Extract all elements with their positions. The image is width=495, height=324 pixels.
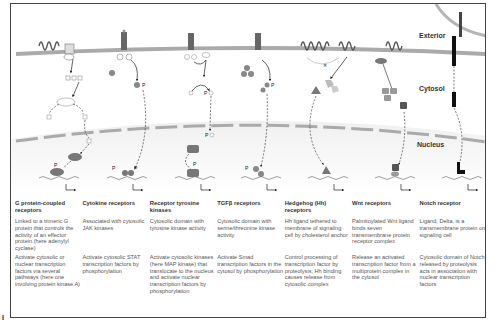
pathway-title: Receptor tyrosine kinases — [150, 200, 216, 216]
pathway-column-tgfb: TGFβ receptors Cytosolic domain with ser… — [217, 200, 283, 318]
pathway-column-rtk: Receptor tyrosine kinases Cytosolic doma… — [150, 200, 216, 318]
svg-text:P: P — [204, 90, 208, 96]
pathway-effect: Activate cytosolic kinases (here MAP kin… — [150, 254, 216, 295]
pathway-description: Cytosolic domain with tyrosine kinase ac… — [150, 218, 216, 252]
pathway-title: Wnt receptors — [352, 200, 418, 216]
svg-text:P: P — [271, 82, 275, 88]
pathway-column-hedgehog: Hedgehog (Hh) receptors Hh ligand tether… — [285, 200, 351, 318]
pathway-title: Notch receptor — [420, 200, 486, 216]
pathway-effect: Activate cytosolic STAT transcription fa… — [82, 254, 148, 274]
pathway-title: TGFβ receptors — [217, 200, 283, 216]
pathway-effect: Activate cytosolic or nuclear transcript… — [15, 254, 81, 288]
pathway-illustration: P P P P — [11, 4, 486, 194]
pathway-effect: Activate Smad transcription factors in t… — [217, 254, 283, 274]
nucleus-region — [11, 121, 486, 194]
pathway-description: Ligand, Delta, is a transmembrane protei… — [420, 218, 486, 252]
svg-text:✕: ✕ — [323, 62, 327, 68]
label-nucleus: Nucleus — [417, 141, 444, 148]
pathway-title: Cytokine receptors — [82, 200, 148, 216]
pathway-column-wnt: Wnt receptors Palmitoylated Wnt ligand b… — [352, 200, 418, 318]
pathway-effect: Release an activated transcription facto… — [352, 254, 418, 281]
pathway-descriptions: G protein-coupled receptors Linked to a … — [11, 200, 486, 318]
pathway-column-gpcr: G protein-coupled receptors Linked to a … — [15, 200, 81, 318]
pathway-effect: Cytosolic domain of Notch released by pr… — [420, 254, 486, 288]
plasma-membrane — [16, 48, 486, 54]
label-exterior: Exterior — [419, 32, 445, 39]
pathway-description: Cytosolic domain with serine/threonine k… — [217, 218, 283, 252]
signaling-pathways-diagram: P P P P — [11, 4, 486, 194]
pathway-description: Hh ligand tethered to membrane of signal… — [285, 218, 351, 252]
pathway-title: G protein-coupled receptors — [15, 200, 81, 216]
figure-frame: P P P P — [10, 3, 486, 318]
svg-text:P: P — [142, 82, 146, 88]
pathway-description: Associated with cytosolic JAK kinases — [82, 218, 148, 252]
pathway-title: Hedgehog (Hh) receptors — [285, 200, 351, 216]
pathway-effect: Control processing of transcription fact… — [285, 254, 351, 288]
pathway-column-notch: Notch receptor Ligand, Delta, is a trans… — [420, 200, 486, 318]
pathway-description: Palmitoylated Wnt ligand binds seven tra… — [352, 218, 418, 252]
label-cytosol: Cytosol — [419, 85, 445, 92]
corner-mark: I — [2, 314, 4, 321]
pathway-column-cytokine: Cytokine receptors Associated with cytos… — [82, 200, 148, 318]
pathway-description: Linked to a trimeric G protein that cont… — [15, 218, 81, 252]
